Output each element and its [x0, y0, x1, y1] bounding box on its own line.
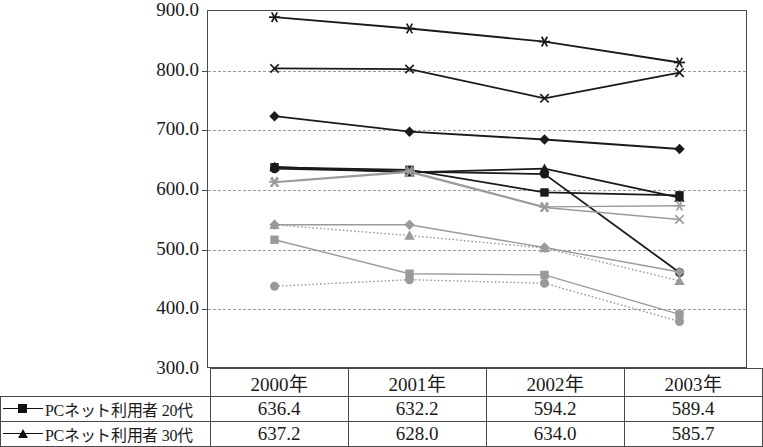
table-value-cell: 637.2	[210, 422, 348, 447]
series-line	[275, 280, 680, 322]
legend-marker-square-icon	[3, 401, 43, 417]
data-point-marker-asterisk	[269, 12, 280, 22]
data-point-marker-asterisk	[404, 24, 415, 34]
series-6	[270, 168, 683, 224]
data-point-marker-asterisk	[674, 58, 685, 68]
table-value-cell: 585.7	[624, 422, 762, 447]
line-chart: 900.0800.0700.0600.0500.0400.0300.0	[0, 0, 755, 390]
series-line	[275, 172, 680, 219]
series-layer	[207, 10, 747, 368]
table-value-cell: 634.0	[486, 422, 624, 447]
legend-row-label-cell: PCネット利用者 30代	[1, 422, 211, 447]
data-point-marker-square	[540, 271, 548, 279]
table-year-header: 2003年	[624, 369, 762, 397]
table-body: PCネット利用者 20代636.4632.2594.2589.4PCネット利用者…	[1, 397, 763, 447]
data-point-marker-circle	[540, 279, 549, 288]
data-point-marker-diamond	[539, 134, 549, 144]
table-value-cell: 589.4	[624, 397, 762, 422]
table-value-cell: 628.0	[348, 422, 486, 447]
series-line	[275, 17, 680, 62]
table-value-cell: 632.2	[348, 397, 486, 422]
legend-marker-triangle-icon	[3, 426, 43, 442]
series-line	[275, 116, 680, 149]
data-point-marker-asterisk	[674, 201, 685, 211]
table-value-cell: 636.4	[210, 397, 348, 422]
legend-label: PCネット利用者 30代	[45, 422, 193, 446]
series-line	[275, 171, 680, 207]
y-axis-tick-label: 400.0	[156, 298, 199, 317]
data-point-marker-triangle	[674, 276, 684, 285]
series-10	[270, 236, 683, 319]
table-header-row: 2000年 2001年 2002年 2003年	[1, 369, 763, 397]
series-0	[269, 12, 685, 67]
table-year-header: 2000年	[210, 369, 348, 397]
series-1	[270, 64, 683, 102]
series-line	[275, 68, 680, 98]
y-axis-tick-label: 800.0	[156, 60, 199, 79]
y-axis: 900.0800.0700.0600.0500.0400.0300.0	[0, 0, 203, 390]
y-axis-tick-label: 900.0	[156, 0, 199, 19]
series-line	[275, 225, 680, 281]
data-point-marker-square	[270, 236, 278, 244]
data-point-marker-circle	[540, 170, 549, 179]
data-point-marker-triangle	[404, 230, 414, 239]
table-year-header: 2002年	[486, 369, 624, 397]
series-11	[270, 275, 684, 326]
legend-row-label-cell: PCネット利用者 20代	[1, 397, 211, 422]
data-point-marker-diamond	[674, 144, 684, 154]
data-point-marker-asterisk	[539, 37, 550, 47]
series-line	[275, 240, 680, 315]
series-9	[269, 220, 684, 285]
data-point-marker-diamond	[404, 220, 414, 230]
data-table: 2000年 2001年 2002年 2003年 PCネット利用者 20代636.…	[0, 368, 763, 447]
table-corner-cell	[1, 369, 211, 397]
series-line	[275, 225, 680, 272]
series-8	[269, 220, 684, 278]
series-2	[269, 111, 684, 154]
y-axis-tick-label: 700.0	[156, 119, 199, 138]
data-point-marker-square	[675, 191, 683, 199]
data-point-marker-circle	[675, 317, 684, 326]
series-4	[270, 163, 683, 199]
data-point-marker-diamond	[269, 111, 279, 121]
series-line	[275, 167, 680, 195]
data-point-marker-diamond	[404, 127, 414, 137]
data-point-marker-diamond	[674, 267, 684, 277]
data-point-marker-square	[540, 188, 548, 196]
y-axis-tick-label: 500.0	[156, 239, 199, 258]
legend-label: PCネット利用者 20代	[45, 397, 193, 421]
data-point-marker-circle	[270, 282, 279, 291]
data-point-marker-circle	[405, 275, 414, 284]
table-row: PCネット利用者 20代636.4632.2594.2589.4	[1, 397, 763, 422]
series-line	[275, 167, 680, 198]
data-point-marker-circle	[270, 164, 279, 173]
y-axis-tick-label: 600.0	[156, 179, 199, 198]
table-row: PCネット利用者 30代637.2628.0634.0585.7	[1, 422, 763, 447]
table-value-cell: 594.2	[486, 397, 624, 422]
table-year-header: 2001年	[348, 369, 486, 397]
